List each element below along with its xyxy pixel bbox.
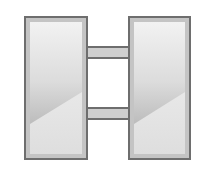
- h-letter-icon: [0, 0, 201, 179]
- center-window: [90, 59, 126, 107]
- right-pillar: [129, 17, 190, 159]
- top-crossbar: [86, 47, 130, 58]
- left-pillar: [25, 17, 87, 159]
- bottom-crossbar: [86, 108, 130, 119]
- h-icon-canvas: [0, 0, 201, 179]
